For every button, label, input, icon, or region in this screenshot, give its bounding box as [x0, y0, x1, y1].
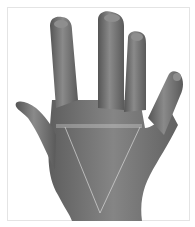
hand-photo — [0, 0, 195, 227]
nail-little — [173, 73, 181, 81]
hand — [16, 11, 183, 221]
nail-ring — [131, 33, 143, 41]
nail-index — [54, 20, 68, 28]
nail-middle — [104, 14, 120, 22]
